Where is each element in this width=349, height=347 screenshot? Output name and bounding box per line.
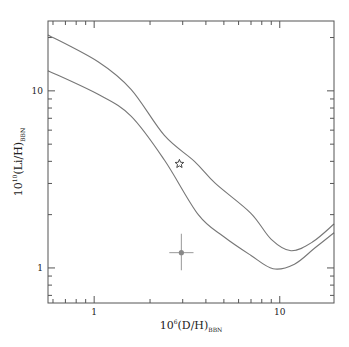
curves: [48, 35, 334, 269]
curve-lower-bound: [48, 71, 334, 269]
x-tick-label: 10: [274, 307, 286, 317]
y-tick-label: 1: [37, 263, 43, 273]
star-marker: [175, 159, 184, 167]
y-tick-label: 10: [32, 86, 44, 96]
chart: 110110 106(D/H)BBN 1010(Li/H)BBN: [0, 0, 349, 347]
plot-frame: [48, 21, 334, 303]
x-axis-label: 106(D/H)BBN: [160, 318, 223, 333]
axis-ticks: [48, 21, 334, 303]
x-tick-label: 1: [91, 307, 97, 317]
tick-labels: 110110: [32, 86, 286, 317]
markers: [169, 159, 193, 270]
curve-upper-bound: [48, 35, 334, 251]
data-point: [179, 250, 184, 255]
y-axis-label: 1010(Li/H)BBN: [11, 128, 26, 196]
